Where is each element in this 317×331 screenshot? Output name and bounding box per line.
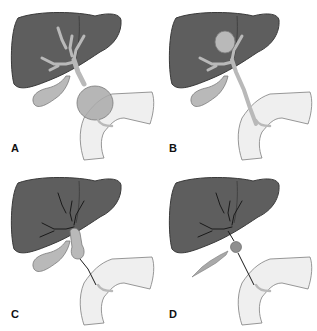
liver [169,178,279,253]
panel-d: D [158,165,316,330]
choledochal-cyst [77,86,113,120]
panel-c: C [0,165,158,330]
duodenum [80,257,154,325]
biliary-diagram-b [158,0,316,165]
panel-label: D [169,308,177,320]
hilar-cyst [231,242,242,253]
intrahepatic-cyst [215,31,235,53]
panel-label: C [11,308,19,320]
common-bile-duct [232,60,256,124]
dilated-proximal-duct [70,228,84,259]
duodenum [238,257,312,325]
panel-b: B [158,0,316,165]
panel-label: A [11,142,19,154]
biliary-diagram-c [0,165,158,331]
biliary-diagram-a [0,0,158,165]
biliary-diagram-d [158,165,316,331]
panel-a: A [0,0,158,165]
atrophic-gallbladder [192,251,228,277]
panel-label: B [169,142,177,154]
